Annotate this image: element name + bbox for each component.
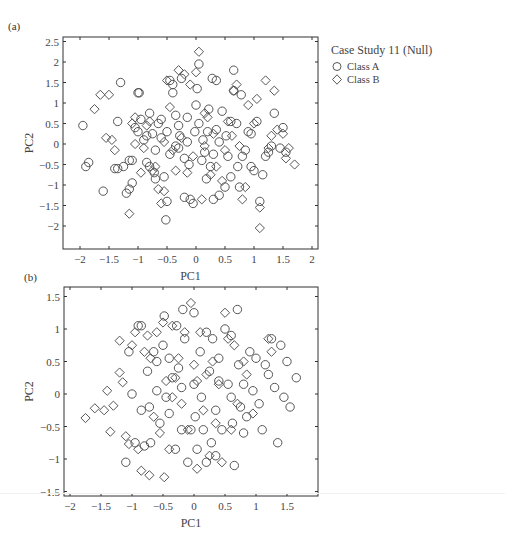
class-b-point <box>152 328 161 337</box>
class-a-point <box>151 146 159 154</box>
class-a-point <box>227 117 235 125</box>
class-a-point <box>205 367 213 375</box>
class-b-point <box>131 113 140 122</box>
class-a-point <box>180 154 188 162</box>
class-a-point <box>99 187 107 195</box>
class-b-point <box>90 404 99 413</box>
class-a-point <box>198 156 206 164</box>
x-tick-label: 0.5 <box>218 500 232 512</box>
diamond-marker-icon <box>331 74 343 85</box>
x-tick-label: 1.5 <box>280 500 294 512</box>
class-b-point <box>110 146 119 155</box>
class-a-point <box>230 66 238 74</box>
class-b-point <box>115 336 124 345</box>
x-tick-label: −0.5 <box>157 253 177 265</box>
class-b-point <box>157 199 166 208</box>
class-a-point <box>169 89 177 97</box>
class-a-point <box>267 335 275 343</box>
class-b-point <box>118 378 127 387</box>
class-a-point <box>224 152 232 160</box>
class-b-point <box>189 152 198 161</box>
class-b-point <box>191 68 200 77</box>
legend-item-class-b: Class B <box>331 73 432 86</box>
axes-frame <box>63 37 318 249</box>
class-b-point <box>137 466 146 475</box>
x-tick-label: 1 <box>251 253 257 265</box>
x-axis-label: PC1 <box>181 516 202 530</box>
class-a-point <box>277 341 285 349</box>
class-a-point <box>286 403 294 411</box>
class-b-point <box>255 223 264 232</box>
class-b-point <box>194 47 203 56</box>
class-b-point <box>155 428 164 437</box>
class-b-point <box>183 168 192 177</box>
y-tick-label: 2.5 <box>45 36 59 48</box>
y-tick-label: −2 <box>47 220 59 232</box>
class-b-point <box>131 139 140 148</box>
class-b-point <box>143 331 152 340</box>
y-tick-label: 1 <box>54 97 60 109</box>
class-a-point <box>160 173 168 181</box>
class-a-point <box>247 130 255 138</box>
class-a-point <box>137 406 145 414</box>
scatter-points <box>79 47 300 233</box>
x-tick-label: 0.5 <box>218 253 232 265</box>
class-a-point <box>236 403 244 411</box>
class-a-point <box>116 78 124 86</box>
class-b-point <box>160 473 169 482</box>
class-a-point <box>165 409 173 417</box>
class-b-point <box>174 66 183 75</box>
class-a-point <box>156 419 164 427</box>
class-b-point <box>267 347 276 356</box>
class-a-point <box>125 348 133 356</box>
class-a-point <box>202 458 210 466</box>
class-b-point <box>177 133 186 142</box>
x-tick-label: −2 <box>74 253 86 265</box>
class-a-point <box>215 138 223 146</box>
class-b-point <box>115 368 124 377</box>
y-tick-label: 1.5 <box>45 77 59 89</box>
class-b-point <box>109 401 118 410</box>
class-a-point <box>192 101 200 109</box>
class-a-point <box>218 107 226 115</box>
class-a-point <box>261 361 269 369</box>
y-tick-label: −1.5 <box>39 200 59 212</box>
x-tick-label: 1.5 <box>276 253 290 265</box>
class-a-point <box>128 390 136 398</box>
class-a-point <box>218 426 226 434</box>
class-a-point <box>215 354 223 362</box>
x-tick-label: 0 <box>191 500 197 512</box>
class-a-point <box>230 461 238 469</box>
class-a-point <box>259 171 267 179</box>
class-a-point <box>183 113 191 121</box>
class-a-point <box>280 393 288 401</box>
class-b-point <box>244 100 253 109</box>
class-a-point <box>276 144 284 152</box>
class-a-point <box>190 309 198 317</box>
class-a-point <box>148 130 156 138</box>
class-a-point <box>234 162 242 170</box>
class-b-point <box>242 370 251 379</box>
y-tick-label: −1 <box>48 453 60 465</box>
class-a-point <box>209 150 217 158</box>
class-a-point <box>222 132 230 140</box>
class-a-point <box>246 348 254 356</box>
class-a-point <box>227 173 235 181</box>
class-a-point <box>237 91 245 99</box>
class-a-point <box>150 348 158 356</box>
class-b-point <box>249 119 258 128</box>
class-b-point <box>171 166 180 175</box>
class-a-point <box>215 377 223 385</box>
scatter-points <box>81 298 301 481</box>
class-b-point <box>273 125 282 134</box>
class-b-point <box>106 427 115 436</box>
class-a-point <box>184 458 192 466</box>
class-a-point <box>255 400 263 408</box>
class-a-point <box>159 341 167 349</box>
class-b-point <box>165 103 174 112</box>
class-b-point <box>220 308 229 317</box>
class-a-point <box>174 121 182 129</box>
y-tick-label: −1.5 <box>40 486 60 498</box>
class-a-point <box>202 328 210 336</box>
legend: Case Study 11 (Null) Class A Class B <box>331 43 432 86</box>
